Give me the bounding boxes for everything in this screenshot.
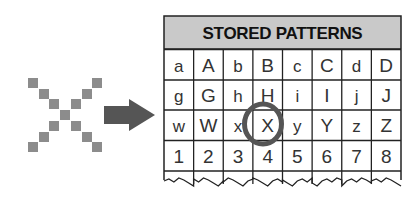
table-cell: W	[199, 115, 217, 136]
table-cell: G	[201, 85, 216, 106]
table-cell: w	[172, 117, 186, 136]
table-cell: z	[352, 117, 361, 136]
table-cell: c	[293, 57, 302, 76]
table-cell: A	[202, 55, 215, 76]
table-cell: y	[293, 117, 302, 136]
table-cell: g	[174, 87, 183, 106]
table-cell: 4	[262, 146, 273, 167]
table-cell: D	[379, 55, 393, 76]
table-cell: h	[233, 87, 242, 106]
table-cell: I	[324, 85, 329, 106]
table-cell: d	[352, 57, 361, 76]
pattern-recognition-diagram: STORED PATTERNS aAbBcCdDgGhHiIjJwWxXyYzZ…	[0, 0, 418, 205]
table-cell: 2	[203, 146, 214, 167]
table-cell: X	[261, 115, 274, 136]
table-cell: C	[320, 55, 334, 76]
table-cell: 7	[351, 146, 362, 167]
table-cell: 3	[233, 146, 244, 167]
table-cell: b	[233, 57, 242, 76]
table-title: STORED PATTERNS	[203, 24, 363, 43]
table-cell: 6	[322, 146, 333, 167]
diagram-svg: STORED PATTERNS aAbBcCdDgGhHiIjJwWxXyYzZ…	[0, 0, 418, 205]
table-cell: x	[234, 117, 243, 136]
table-cell: a	[174, 57, 184, 76]
table-cell: Z	[380, 115, 392, 136]
table-cell: j	[354, 87, 359, 106]
table-cell: B	[261, 55, 274, 76]
right-arrow-icon	[104, 99, 155, 131]
table-cell: Y	[321, 115, 334, 136]
table-cell: 5	[292, 146, 303, 167]
stored-patterns-table: STORED PATTERNS aAbBcCdDgGhHiIjJwWxXyYzZ…	[164, 16, 401, 186]
table-cell: J	[381, 85, 391, 106]
table-cell: 1	[174, 146, 185, 167]
table-cell: 8	[381, 146, 392, 167]
table-cell: i	[295, 87, 299, 106]
